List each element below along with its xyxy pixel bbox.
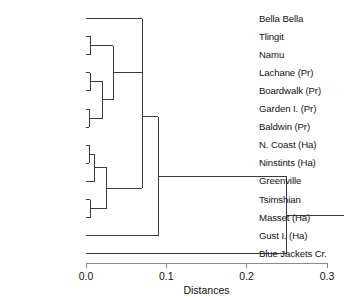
x-axis-tick-label: 0.1 [159,271,174,282]
x-axis-tick-label: 0.3 [320,271,335,282]
x-axis-ticks [86,263,327,268]
x-axis [86,263,327,268]
leaf-label: Baldwin (Pr) [259,122,344,132]
leaf-label: Masset (Ha) [259,213,344,223]
leaf-label: Lachane (Pr) [259,68,344,78]
leaf-label: Garden I. (Pr) [259,104,344,114]
dendrogram-figure: Bella BellaTlingitNamuLachane (Pr)Boardw… [0,0,344,297]
leaf-label: Tlingit [259,32,344,42]
x-axis-title: Distances [183,285,229,296]
leaf-label: Ninstints (Ha) [259,159,344,169]
x-axis-tick-label: 0.2 [239,271,254,282]
leaf-label: Blue Jackets Cr. [259,249,344,259]
leaf-label: Gust I. (Ha) [259,231,344,241]
leaf-label: Namu [259,50,344,60]
leaf-label: Greenville [259,177,344,187]
leaf-label: Bella Bella [259,14,344,24]
leaf-label: N. Coast (Ha) [259,140,344,150]
leaf-label: Tsimshian [259,195,344,205]
leaf-label: Boardwalk (Pr) [259,86,344,96]
x-axis-tick-label: 0.0 [79,271,94,282]
